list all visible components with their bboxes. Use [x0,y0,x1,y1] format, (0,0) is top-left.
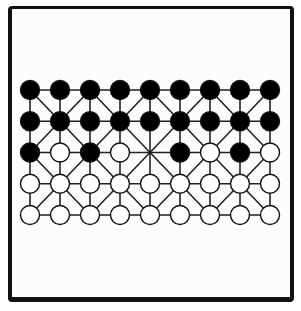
black-piece[interactable] [21,81,40,100]
white-piece[interactable] [171,206,190,225]
white-piece[interactable] [201,206,220,225]
empty-point[interactable] [141,143,160,162]
black-piece[interactable] [51,81,70,100]
white-piece[interactable] [111,174,130,193]
black-piece[interactable] [261,112,280,131]
white-piece[interactable] [81,206,100,225]
black-piece[interactable] [201,112,220,131]
black-piece[interactable] [111,112,130,131]
black-piece[interactable] [111,81,130,100]
black-piece[interactable] [261,81,280,100]
black-piece[interactable] [171,81,190,100]
white-piece[interactable] [201,143,220,162]
white-piece[interactable] [141,174,160,193]
black-piece[interactable] [21,112,40,131]
white-piece[interactable] [51,174,70,193]
white-piece[interactable] [21,206,40,225]
white-piece[interactable] [111,143,130,162]
black-piece[interactable] [51,112,70,131]
black-piece[interactable] [231,112,250,131]
black-piece[interactable] [201,81,220,100]
black-piece[interactable] [81,81,100,100]
white-piece[interactable] [111,206,130,225]
black-piece[interactable] [141,112,160,131]
white-piece[interactable] [231,174,250,193]
white-piece[interactable] [21,174,40,193]
white-piece[interactable] [51,206,70,225]
black-piece[interactable] [81,143,100,162]
black-piece[interactable] [21,143,40,162]
white-piece[interactable] [261,206,280,225]
black-piece[interactable] [231,143,250,162]
white-piece[interactable] [81,174,100,193]
white-piece[interactable] [51,143,70,162]
white-piece[interactable] [261,143,280,162]
white-piece[interactable] [231,206,250,225]
white-piece[interactable] [171,174,190,193]
white-piece[interactable] [261,174,280,193]
game-board [0,0,301,311]
black-piece[interactable] [171,112,190,131]
white-piece[interactable] [201,174,220,193]
black-piece[interactable] [171,143,190,162]
black-piece[interactable] [231,81,250,100]
black-piece[interactable] [141,81,160,100]
black-piece[interactable] [81,112,100,131]
white-piece[interactable] [141,206,160,225]
